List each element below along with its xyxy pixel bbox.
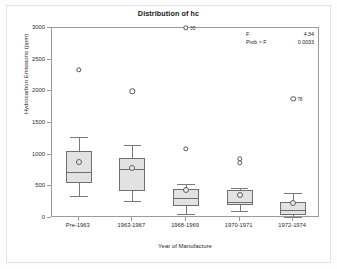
whisker-cap-lower bbox=[284, 217, 302, 218]
y-tick-label: 500 bbox=[35, 182, 45, 188]
outlier-point bbox=[76, 67, 81, 72]
median-line bbox=[66, 172, 92, 173]
mean-marker bbox=[183, 187, 189, 193]
stat-value: 4.34 bbox=[304, 30, 314, 38]
whisker-lower bbox=[186, 206, 187, 214]
stat-key: Prob > F bbox=[246, 38, 266, 46]
whisker-upper bbox=[132, 145, 133, 158]
x-tick-label: 1963-1967 bbox=[118, 222, 146, 228]
whisker-cap-upper bbox=[124, 145, 142, 146]
mean-marker bbox=[76, 159, 82, 165]
stat-key: F bbox=[246, 30, 249, 38]
x-tick-mark bbox=[292, 217, 293, 221]
x-tick-label: Pre-1963 bbox=[66, 222, 90, 228]
stat-row: F4.34 bbox=[246, 30, 314, 38]
x-tick-mark bbox=[239, 217, 240, 221]
x-tick-label: 1972-1974 bbox=[278, 222, 306, 228]
whisker-cap-lower bbox=[124, 201, 142, 202]
median-line bbox=[173, 198, 199, 199]
y-tick-mark bbox=[47, 27, 51, 28]
y-axis-label: Hydrocarbon Emissions (ppm) bbox=[23, 0, 29, 149]
y-tick-mark bbox=[47, 122, 51, 123]
whisker-cap-lower bbox=[231, 211, 249, 212]
y-tick-mark bbox=[47, 59, 51, 60]
x-tick-label: 1970-1971 bbox=[225, 222, 253, 228]
whisker-cap-upper bbox=[70, 137, 88, 138]
anova-stats-annotation: F4.34Prob > F0.0033 bbox=[246, 30, 314, 46]
median-line bbox=[227, 202, 253, 203]
y-tick-mark bbox=[47, 90, 51, 91]
y-tick-label: 2000 bbox=[32, 87, 45, 93]
x-tick-mark bbox=[78, 217, 79, 221]
whisker-cap-lower bbox=[70, 196, 88, 197]
y-tick-label: 3000 bbox=[32, 24, 45, 30]
outlier-point bbox=[183, 146, 188, 151]
mean-marker bbox=[290, 200, 296, 206]
y-tick-mark bbox=[47, 154, 51, 155]
x-tick-mark bbox=[131, 217, 132, 221]
whisker-lower bbox=[132, 191, 133, 201]
box-iqr bbox=[66, 151, 92, 183]
plot-area: 3578 bbox=[51, 27, 319, 217]
stat-value: 0.0033 bbox=[298, 38, 314, 46]
x-tick-mark bbox=[185, 217, 186, 221]
x-axis-label: Year of Manufacture bbox=[51, 243, 319, 249]
whisker-cap-upper bbox=[284, 193, 302, 194]
outlier-point bbox=[290, 96, 295, 101]
y-tick-label: 2500 bbox=[32, 56, 45, 62]
y-tick-mark bbox=[47, 217, 51, 218]
outlier-point bbox=[183, 25, 188, 30]
screenshot-canvas: Distribution of hc Hydrocarbon Emissions… bbox=[0, 0, 337, 269]
median-line bbox=[280, 210, 306, 211]
whisker-upper bbox=[79, 137, 80, 151]
stat-row: Prob > F0.0033 bbox=[246, 38, 314, 46]
y-tick-label: 0 bbox=[42, 214, 45, 220]
outlier-point bbox=[130, 89, 135, 94]
box-iqr bbox=[119, 158, 145, 190]
whisker-cap-lower bbox=[177, 214, 195, 215]
y-tick-mark bbox=[47, 185, 51, 186]
mean-marker bbox=[129, 165, 135, 171]
chart-title: Distribution of hc bbox=[0, 9, 337, 18]
outlier-label: 35 bbox=[190, 26, 195, 31]
whisker-cap-upper bbox=[177, 184, 195, 185]
whisker-cap-upper bbox=[231, 188, 249, 189]
mean-marker bbox=[237, 192, 243, 198]
outlier-label: 78 bbox=[297, 96, 302, 101]
whisker-lower bbox=[79, 183, 80, 196]
y-tick-label: 1000 bbox=[32, 151, 45, 157]
outlier-point bbox=[237, 160, 242, 165]
y-tick-label: 1500 bbox=[32, 119, 45, 125]
x-tick-label: 1968-1969 bbox=[171, 222, 199, 228]
